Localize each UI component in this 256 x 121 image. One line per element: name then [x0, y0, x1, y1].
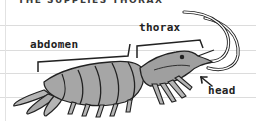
- abdomen-label: abdomen: [30, 38, 78, 51]
- thorax-label: thorax: [139, 21, 181, 34]
- thorax-head-body: [140, 50, 214, 86]
- abdomen-body: [44, 61, 144, 106]
- shrimp-illustration: [0, 0, 256, 121]
- head-label: head: [208, 84, 236, 97]
